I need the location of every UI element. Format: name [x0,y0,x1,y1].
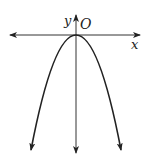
parabola-diagram: y O x [0,0,147,158]
y-axis-label: y [63,13,72,28]
origin-label: O [80,16,92,32]
x-axis-label: x [131,37,139,52]
